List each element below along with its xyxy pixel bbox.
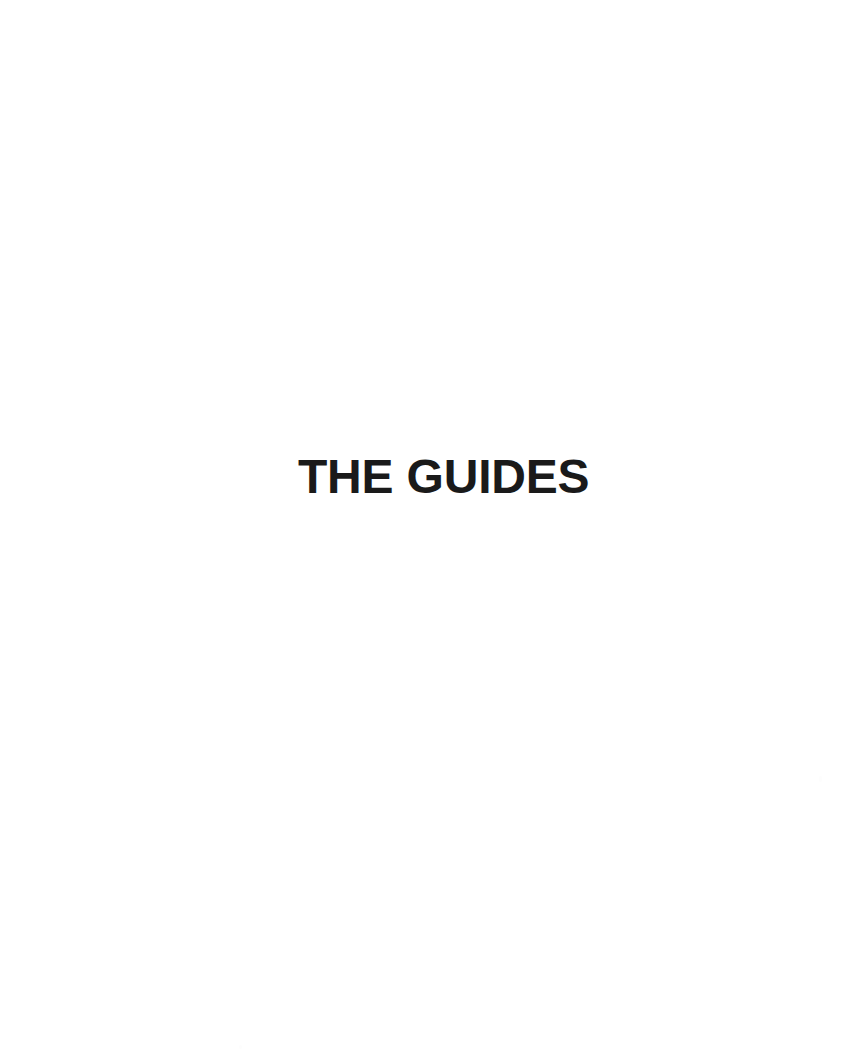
page-title: THE GUIDES <box>298 449 589 505</box>
document-page: THE GUIDES <box>0 0 849 1053</box>
scan-artifact-speck <box>239 1045 242 1049</box>
scan-artifact-speck <box>819 776 822 782</box>
